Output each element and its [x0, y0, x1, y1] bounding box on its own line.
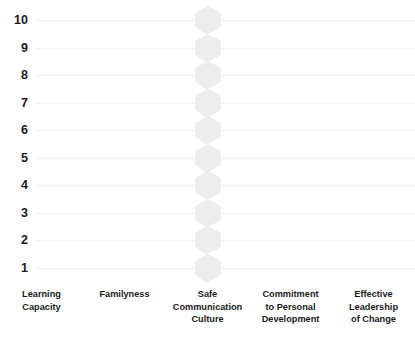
x-axis-label-line: Learning [1, 288, 82, 301]
x-axis-label-commitment-to-personal-development: Commitmentto PersonalDevelopment [249, 288, 332, 326]
hexagon-marker[interactable] [193, 253, 223, 283]
x-axis-label-line: Commitment [250, 288, 331, 301]
data-marker-group [0, 0, 415, 285]
hexagon-marker[interactable] [193, 143, 223, 173]
x-axis-label-line: Effective [333, 288, 414, 301]
x-axis-label-line: of Change [333, 313, 414, 326]
x-axis-label-line: Familyness [84, 288, 165, 301]
chart-container: 10987654321 LearningCapacityFamilynessSa… [0, 0, 415, 341]
hexagon-marker[interactable] [193, 88, 223, 118]
plot-area: 10987654321 [0, 0, 415, 285]
x-axis-label-safe-communication-culture: SafeCommunicationCulture [166, 288, 249, 326]
hexagon-marker[interactable] [193, 198, 223, 228]
x-axis-label-learning-capacity: LearningCapacity [0, 288, 83, 313]
x-axis-label-line: Capacity [1, 301, 82, 314]
hexagon-marker[interactable] [193, 33, 223, 63]
x-axis-label-line: Safe [167, 288, 248, 301]
x-axis-category-labels: LearningCapacityFamilynessSafeCommunicat… [0, 288, 415, 341]
x-axis-label-line: Communication [167, 301, 248, 314]
x-axis-label-line: Development [250, 313, 331, 326]
hexagon-marker[interactable] [193, 5, 223, 35]
hexagon-marker[interactable] [193, 60, 223, 90]
hexagon-marker[interactable] [193, 115, 223, 145]
x-axis-label-effective-leadership-of-change: EffectiveLeadershipof Change [332, 288, 415, 326]
x-axis-label-line: Culture [167, 313, 248, 326]
x-axis-label-line: to Personal [250, 301, 331, 314]
hexagon-marker[interactable] [193, 225, 223, 255]
hexagon-marker[interactable] [193, 170, 223, 200]
x-axis-label-familyness: Familyness [83, 288, 166, 301]
x-axis-label-line: Leadership [333, 301, 414, 314]
